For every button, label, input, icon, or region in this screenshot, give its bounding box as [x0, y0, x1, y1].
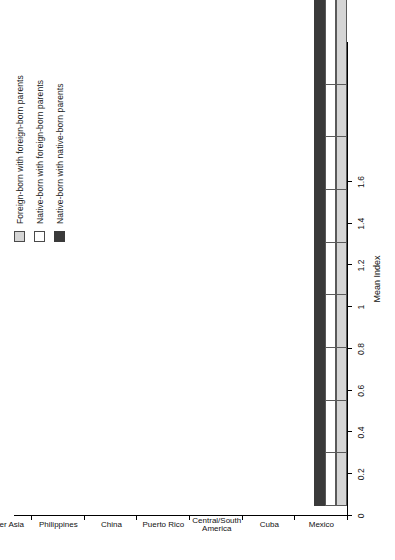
category-label: Central/SouthAmerica	[190, 518, 243, 535]
value-tick-label: 0.4	[356, 427, 366, 439]
category-tick	[294, 516, 295, 520]
value-tick-label: 1	[356, 305, 366, 310]
value-tick-label: 0.6	[356, 385, 366, 397]
value-tick	[348, 348, 352, 349]
rotated-figure-wrapper: Foreign-born with foreign-born parents N…	[0, 0, 395, 560]
plot-area: MexicoCubaCentral/SouthAmericaPuerto Ric…	[14, 42, 348, 516]
category-tick	[189, 516, 190, 520]
value-tick-label: 0.2	[356, 468, 366, 480]
value-tick-label: 0.8	[356, 343, 366, 355]
bar-group	[13, 210, 347, 243]
value-tick-label: 1.2	[356, 260, 366, 272]
category-label: Cuba	[243, 522, 296, 530]
category-label: Mexico	[295, 522, 348, 530]
bar-group	[13, 315, 347, 348]
category-tick	[31, 516, 32, 520]
bar-group	[13, 52, 347, 85]
bar	[325, 0, 336, 85]
bar	[314, 0, 325, 85]
value-axis-title: Mean Index	[372, 255, 382, 302]
bar-group	[13, 473, 347, 506]
category-label: China	[85, 522, 138, 530]
bar-group	[13, 157, 347, 190]
value-tick	[348, 306, 352, 307]
value-tick	[348, 432, 352, 433]
bar-group	[13, 263, 347, 296]
category-tick	[347, 516, 348, 520]
value-tick-label: 1.4	[356, 218, 366, 230]
category-axis-line	[14, 515, 348, 516]
bar-group	[13, 105, 347, 138]
value-tick-label: 0	[356, 514, 366, 519]
bar-group	[13, 368, 347, 401]
value-tick	[348, 265, 352, 266]
value-tick	[348, 390, 352, 391]
bar-chart: Foreign-born with foreign-born parents N…	[0, 0, 395, 560]
category-tick	[84, 516, 85, 520]
value-tick	[348, 473, 352, 474]
category-label: Philippines	[32, 522, 85, 530]
value-tick	[348, 515, 352, 516]
bar-group	[13, 421, 347, 454]
category-label: Other Asia	[0, 522, 32, 530]
value-tick	[348, 223, 352, 224]
value-tick-label: 1.6	[356, 176, 366, 188]
bar	[336, 0, 347, 85]
value-axis-spine	[347, 182, 348, 516]
value-tick	[348, 181, 352, 182]
category-tick	[136, 516, 137, 520]
category-label: Puerto Rico	[137, 522, 190, 530]
